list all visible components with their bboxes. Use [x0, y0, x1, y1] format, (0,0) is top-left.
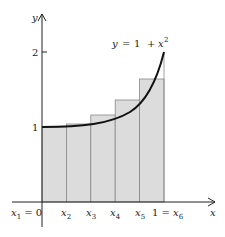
x1-label: x1 = 0 — [11, 207, 42, 221]
x5-label: x5 — [135, 207, 145, 221]
x3-label: x3 — [86, 207, 96, 221]
rectangle-1 — [42, 127, 66, 202]
x-axis-label: x — [210, 207, 216, 218]
x2-label: x2 — [61, 207, 71, 221]
riemann-sum-diagram: y x 2 1 y = 1 + x 2 x1 = 0 x2 x3 x4 x5 1… — [0, 0, 225, 237]
x-point-labels: x1 = 0 x2 x3 x4 x5 1 = x6 — [11, 207, 184, 221]
y-tick-label-2: 2 — [32, 47, 38, 58]
eq-one: 1 — [134, 38, 140, 49]
eq-exponent: 2 — [164, 36, 168, 44]
rectangle-3 — [91, 115, 115, 202]
rectangle-2 — [66, 124, 90, 202]
rectangle-4 — [115, 100, 139, 202]
y-tick-label-1: 1 — [32, 122, 38, 133]
x6-label: 1 = x6 — [152, 207, 184, 221]
x4-label: x4 — [110, 207, 121, 221]
eq-equals: = — [122, 38, 130, 49]
y-axis-label: y — [31, 12, 38, 23]
curve-equation-label: y = 1 + x 2 — [111, 36, 168, 49]
eq-y: y — [111, 38, 118, 49]
rectangle-5 — [140, 79, 164, 202]
eq-plus: + — [147, 38, 155, 49]
